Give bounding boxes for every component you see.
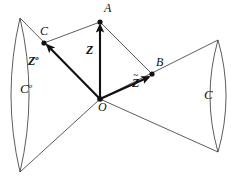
primal-cone-lower-edge xyxy=(100,99,218,152)
cone-polar-cone-diagram xyxy=(0,0,237,178)
cone-label-primal: C xyxy=(204,88,213,101)
tilde-accent-icon: ~ xyxy=(133,71,138,80)
vector-label-Z: Z xyxy=(86,44,93,56)
polar-cone-lower-edge xyxy=(20,99,100,172)
cone-label-polar: Co xyxy=(20,82,32,95)
vector-label-Z-polar-superscript: o xyxy=(35,54,39,62)
connector-line-A-B xyxy=(100,22,152,74)
point-label-A: A xyxy=(104,2,111,14)
cone-label-polar-text: C xyxy=(20,81,29,96)
point-dot-A xyxy=(97,19,102,24)
vector-Z-tilde-arrow xyxy=(100,77,149,99)
cone-label-primal-text: C xyxy=(204,87,213,102)
point-label-O: O xyxy=(98,101,107,113)
connector-line-A-C xyxy=(44,22,100,43)
point-label-B: B xyxy=(156,56,163,68)
cone-label-polar-superscript: o xyxy=(29,82,33,90)
vector-label-Z-tilde-wrap: ~Z xyxy=(132,77,139,89)
vector-label-Z-text: Z xyxy=(86,43,93,57)
point-dot-B xyxy=(149,71,154,76)
vector-label-Z-tilde: ~Z xyxy=(132,77,139,89)
point-dot-C xyxy=(41,40,46,45)
vector-label-Z-polar: Zo xyxy=(28,55,39,67)
point-label-C: C xyxy=(40,25,48,37)
polar-cone-cap-outer-arc xyxy=(11,18,20,172)
primal-cone-cap-outer-arc xyxy=(218,40,226,152)
